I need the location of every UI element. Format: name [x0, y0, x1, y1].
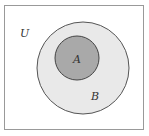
- set-b-label: B: [90, 90, 99, 103]
- venn-diagram: U A B: [0, 0, 149, 136]
- set-a-label: A: [72, 53, 81, 66]
- universe-label: U: [20, 27, 30, 40]
